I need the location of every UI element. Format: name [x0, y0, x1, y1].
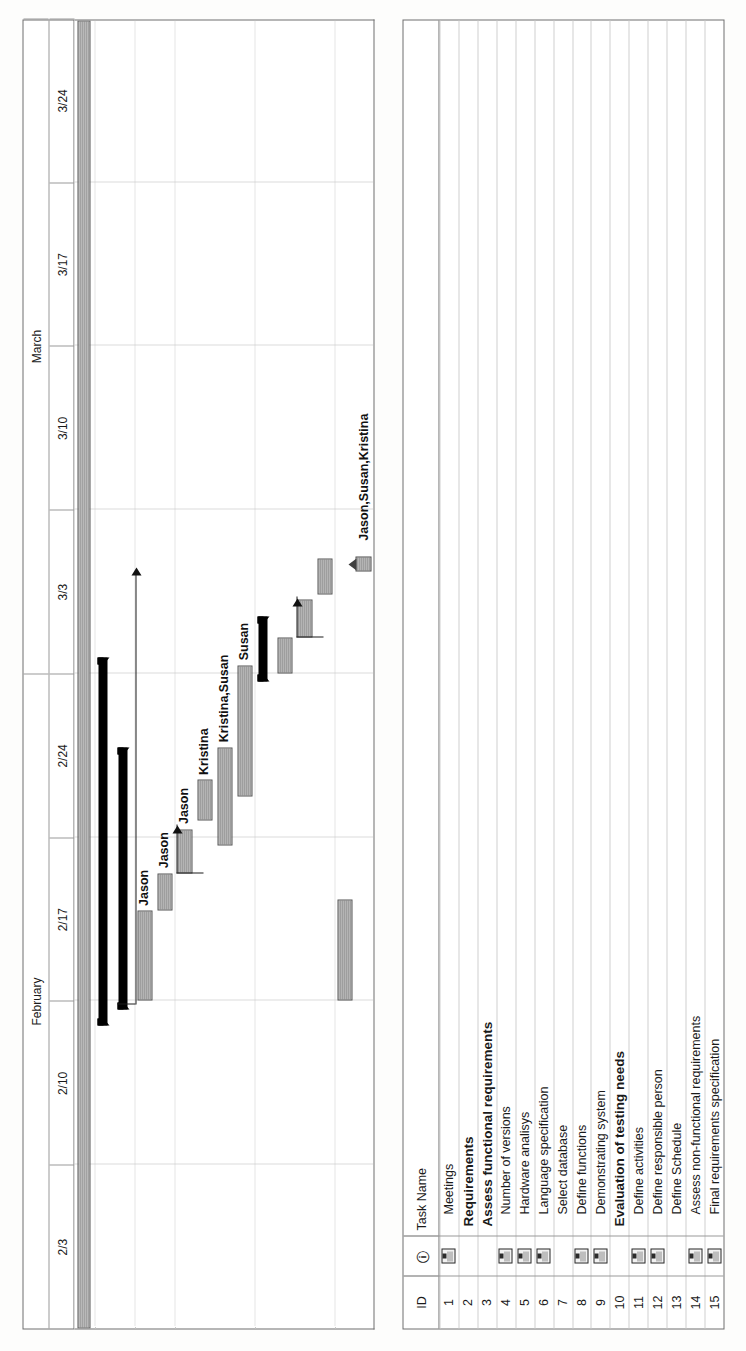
gantt-summary-bar-3[interactable]	[118, 747, 127, 1009]
gantt-plot-area[interactable]: JasonJasonJasonKristinaKristina,SusanSus…	[74, 19, 374, 1329]
gantt-bar-label-7: Kristina	[196, 728, 210, 775]
cell-id-4: 4	[496, 1276, 515, 1328]
table-row[interactable]: 5Hardware analisys	[515, 20, 534, 1328]
gantt-bar-meetings[interactable]	[77, 20, 90, 1328]
cell-task-name-2[interactable]: Requirements	[458, 22, 477, 1236]
info-icon: ⓘ	[413, 1250, 430, 1262]
table-row[interactable]: 14Assess non-functional requirements	[685, 20, 704, 1328]
table-row-divider	[628, 20, 629, 1328]
cell-indicator-1[interactable]	[439, 1236, 458, 1276]
cell-task-name-11[interactable]: Define activities	[628, 22, 647, 1236]
cell-task-name-5[interactable]: Hardware analisys	[515, 22, 534, 1236]
table-row[interactable]: 6Language specification	[534, 20, 553, 1328]
cell-indicator-9[interactable]	[590, 1236, 609, 1276]
cell-task-name-6[interactable]: Language specification	[534, 22, 553, 1236]
week-cell-2-10[interactable]: 2/10	[49, 1001, 74, 1165]
cell-indicator-14[interactable]	[685, 1236, 704, 1276]
task-table[interactable]: IDⓘTask Name 1Meetings2Requirements3Asse…	[402, 19, 724, 1329]
week-label: 3/10	[55, 416, 69, 439]
cell-indicator-5[interactable]	[515, 1236, 534, 1276]
gantt-bar-11[interactable]	[277, 637, 292, 673]
cell-task-name-10[interactable]: Evaluation of testing needs	[609, 22, 628, 1236]
table-row[interactable]: 15Final requirements specification	[704, 20, 723, 1328]
table-row[interactable]: 2Requirements	[458, 20, 477, 1328]
table-row[interactable]: 3Assess functional requirements	[477, 20, 496, 1328]
cell-id-8: 8	[572, 1276, 591, 1328]
table-row[interactable]: 1Meetings	[439, 20, 458, 1328]
row-gridline	[334, 20, 335, 1328]
table-row-divider	[553, 20, 554, 1328]
week-cell-2-24[interactable]: 2/24	[49, 673, 74, 837]
cell-task-name-14[interactable]: Assess non-functional requirements	[685, 22, 704, 1236]
cell-task-name-8[interactable]: Define functions	[572, 22, 591, 1236]
cell-indicator-8[interactable]	[572, 1236, 591, 1276]
cell-indicator-3[interactable]	[477, 1236, 496, 1276]
table-row[interactable]: 9Demonstrating system	[590, 20, 609, 1328]
cell-task-name-9[interactable]: Demonstrating system	[590, 22, 609, 1236]
week-label: 3/17	[55, 252, 69, 275]
note-icon[interactable]	[631, 1249, 645, 1264]
gantt-bar-label-6: Jason	[176, 787, 190, 823]
column-header-task-name: Task Name	[403, 936, 439, 1236]
week-cell-2-3[interactable]: 2/3	[49, 1164, 74, 1328]
gantt-bar-14[interactable]	[337, 899, 352, 1001]
week-cell-3-24[interactable]: 3/24	[49, 18, 74, 182]
week-cell-2-17[interactable]: 2/17	[49, 837, 74, 1001]
cell-indicator-15[interactable]	[704, 1236, 723, 1276]
note-icon[interactable]	[498, 1249, 512, 1264]
week-cell-3-3[interactable]: 3/3	[49, 509, 74, 673]
note-icon[interactable]	[593, 1249, 607, 1264]
table-row[interactable]: 4Number of versions	[496, 20, 515, 1328]
table-column-divider-1	[403, 1235, 723, 1236]
gantt-bar-6[interactable]	[177, 829, 192, 873]
note-icon[interactable]	[707, 1249, 721, 1264]
gantt-bar-4[interactable]	[137, 910, 152, 1000]
cell-indicator-13[interactable]	[666, 1236, 685, 1276]
table-row[interactable]: 10Evaluation of testing needs	[609, 20, 628, 1328]
dependency-link-arrow	[131, 567, 141, 575]
table-row-divider	[439, 20, 440, 1328]
gantt-summary-bar-10[interactable]	[258, 616, 267, 682]
cell-indicator-4[interactable]	[496, 1236, 515, 1276]
table-row[interactable]: 13Define Schedule	[666, 20, 685, 1328]
table-row[interactable]: 7Select database	[553, 20, 572, 1328]
cell-task-name-12[interactable]: Define responsible person	[647, 22, 666, 1236]
cell-indicator-12[interactable]	[647, 1236, 666, 1276]
gantt-bar-7[interactable]	[197, 779, 212, 820]
cell-indicator-11[interactable]	[628, 1236, 647, 1276]
cell-indicator-6[interactable]	[534, 1236, 553, 1276]
week-cell-3-10[interactable]: 3/10	[49, 346, 74, 510]
gantt-bar-9[interactable]	[237, 665, 252, 796]
week-cell-3-17[interactable]: 3/17	[49, 182, 74, 346]
cell-task-name-3[interactable]: Assess functional requirements	[477, 22, 496, 1236]
note-icon[interactable]	[536, 1249, 550, 1264]
cell-task-name-1[interactable]: Meetings	[439, 22, 458, 1236]
column-header-indicator: ⓘ	[403, 1236, 439, 1276]
gantt-bar-13[interactable]	[317, 558, 332, 594]
note-icon[interactable]	[441, 1249, 455, 1264]
timeline-week-row: 2/32/102/172/243/33/103/173/24	[49, 20, 74, 1328]
table-row[interactable]: 12Define responsible person	[647, 20, 666, 1328]
elbow-link-riser-0	[176, 872, 203, 873]
cell-indicator-7[interactable]	[553, 1236, 572, 1276]
table-row[interactable]: 11Define activities	[628, 20, 647, 1328]
cell-task-name-4[interactable]: Number of versions	[496, 22, 515, 1236]
gantt-milestone-15[interactable]	[355, 555, 371, 571]
table-row[interactable]: 8Define functions	[572, 20, 591, 1328]
note-icon[interactable]	[574, 1249, 588, 1264]
timeline-month-row: FebruaryMarch	[23, 20, 49, 1328]
cell-indicator-10[interactable]	[609, 1236, 628, 1276]
cell-indicator-2[interactable]	[458, 1236, 477, 1276]
gantt-sheet: FebruaryMarch 2/32/102/172/243/33/103/17…	[0, 0, 746, 1351]
gantt-summary-bar-2[interactable]	[98, 657, 107, 1025]
gantt-bar-label-4: Jason	[136, 869, 150, 905]
cell-task-name-7[interactable]: Select database	[553, 22, 572, 1236]
note-icon[interactable]	[517, 1249, 531, 1264]
cell-id-15: 15	[704, 1276, 723, 1328]
gantt-bar-8[interactable]	[217, 747, 232, 845]
gantt-bar-5[interactable]	[157, 873, 172, 911]
cell-task-name-15[interactable]: Final requirements specification	[704, 22, 723, 1236]
note-icon[interactable]	[688, 1249, 702, 1264]
note-icon[interactable]	[650, 1249, 664, 1264]
cell-task-name-13[interactable]: Define Schedule	[666, 22, 685, 1236]
